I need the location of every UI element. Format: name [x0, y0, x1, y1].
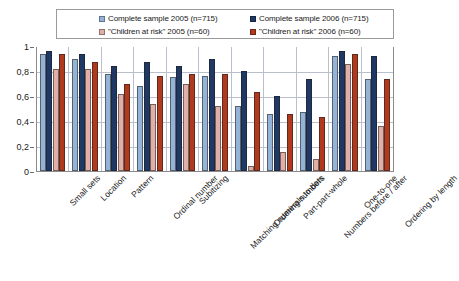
y-axis-tick-mark: [30, 147, 34, 148]
chart-legend: Complete sample 2005 (n=715) Complete sa…: [56, 9, 394, 39]
bar: [92, 62, 98, 171]
y-axis-tick-label: 0: [24, 168, 29, 177]
y-axis-tick-label: 0,4: [16, 118, 29, 127]
bar: [300, 112, 306, 171]
bar: [124, 84, 130, 172]
bar: [46, 51, 52, 171]
legend-swatch-complete-sample-2005: [99, 16, 105, 22]
bar-group: [37, 47, 69, 171]
bar-group: [329, 47, 361, 171]
bar-group: [134, 47, 166, 171]
y-axis-tick-label: 0,6: [16, 93, 29, 102]
x-axis-tick-label: Pattern: [129, 173, 155, 199]
bar: [274, 96, 280, 171]
bar: [371, 56, 377, 171]
bar: [222, 74, 228, 172]
bar: [287, 114, 293, 172]
bar: [280, 152, 286, 171]
bar: [40, 54, 46, 172]
y-axis-tick-mark: [30, 122, 34, 123]
bar: [352, 54, 358, 172]
legend-swatch-complete-sample-2006: [250, 16, 256, 22]
bar: [72, 59, 78, 172]
bar: [53, 69, 59, 172]
bar: [215, 106, 221, 171]
y-axis-tick-mark: [30, 172, 34, 173]
bar: [378, 126, 384, 171]
legend-row: Complete sample 2005 (n=715) Complete sa…: [57, 12, 393, 25]
bar-group: [362, 47, 393, 171]
bar: [170, 77, 176, 171]
bar-group: [264, 47, 296, 171]
bar: [254, 92, 260, 171]
bar: [306, 79, 312, 172]
legend-label-children-at-risk-2005: "Children at risk" 2005 (n=60): [108, 27, 210, 36]
legend-label-complete-sample-2005: Complete sample 2005 (n=715): [108, 14, 218, 23]
bar: [105, 74, 111, 172]
legend-entry-children-at-risk-2005: "Children at risk" 2005 (n=60): [57, 27, 238, 36]
bar: [339, 51, 345, 171]
y-axis-tick-mark: [30, 97, 34, 98]
y-axis-tick-label: 0,2: [16, 143, 29, 152]
legend-swatch-children-at-risk-2006: [250, 29, 256, 35]
legend-label-complete-sample-2006: Complete sample 2006 (n=715): [259, 14, 369, 23]
bar: [332, 56, 338, 171]
legend-entry-children-at-risk-2006: "Children at risk" 2006 (n=60): [238, 27, 393, 36]
x-axis-tick-label: Small sets: [68, 173, 103, 208]
bar: [111, 66, 117, 171]
plot-area: [36, 47, 394, 172]
bar: [209, 59, 215, 172]
legend-row: "Children at risk" 2005 (n=60) "Children…: [57, 25, 393, 38]
bar: [137, 86, 143, 171]
y-axis-tick-mark: [30, 47, 34, 48]
legend-entry-complete-sample-2005: Complete sample 2005 (n=715): [57, 14, 238, 23]
bar-group: [167, 47, 199, 171]
y-axis-tick-mark: [30, 72, 34, 73]
bar: [118, 94, 124, 172]
bar: [150, 104, 156, 172]
legend-label-children-at-risk-2006: "Children at risk" 2006 (n=60): [259, 27, 361, 36]
y-axis-tick-label: 0,8: [16, 68, 29, 77]
bar: [345, 64, 351, 172]
bar: [235, 106, 241, 171]
bar: [202, 76, 208, 171]
bar: [189, 74, 195, 172]
bar-group: [102, 47, 134, 171]
x-axis-tick-label: Numbers before / after: [341, 173, 408, 240]
bar-groups: [37, 47, 393, 171]
bar: [79, 54, 85, 172]
bar: [241, 71, 247, 171]
x-axis-tick-label: Ordering by length: [402, 173, 459, 230]
bar: [248, 166, 254, 171]
bar-group: [297, 47, 329, 171]
y-axis: 00,20,40,60,81: [0, 41, 33, 178]
legend-swatch-children-at-risk-2005: [99, 29, 105, 35]
bar: [384, 79, 390, 172]
x-axis-labels: Small setsLocationPatternOrdinal numberS…: [36, 173, 394, 253]
bar: [59, 54, 65, 172]
legend-entry-complete-sample-2006: Complete sample 2006 (n=715): [238, 14, 393, 23]
bar: [144, 62, 150, 171]
y-axis-tick-label: 1: [24, 43, 29, 52]
bar-group: [232, 47, 264, 171]
bar: [157, 76, 163, 171]
bar: [183, 84, 189, 172]
bar: [319, 117, 325, 171]
bar-group: [199, 47, 231, 171]
bar-group: [69, 47, 101, 171]
bar: [267, 114, 273, 172]
bar: [176, 66, 182, 171]
x-axis-tick-label: Location: [98, 173, 128, 203]
bar: [85, 69, 91, 172]
bar: [365, 79, 371, 172]
bar: [313, 159, 319, 172]
